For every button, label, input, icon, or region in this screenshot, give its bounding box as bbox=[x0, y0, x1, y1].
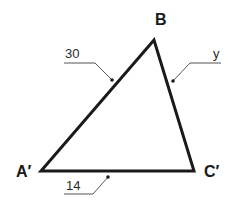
leader-side-ab bbox=[64, 63, 114, 82]
leader-side-bc bbox=[171, 63, 221, 83]
side-label-ac: 14 bbox=[66, 179, 80, 192]
side-label-ab: 30 bbox=[65, 47, 79, 60]
vertex-label-c: C′ bbox=[204, 164, 219, 180]
triangle-shape bbox=[41, 40, 194, 171]
side-label-bc: y bbox=[213, 47, 220, 60]
vertex-label-b: B bbox=[155, 12, 167, 28]
leader-dot-bc bbox=[171, 79, 175, 83]
triangle-diagram: B A′ C′ 30 y 14 bbox=[0, 0, 237, 209]
vertex-label-a: A′ bbox=[16, 164, 31, 180]
triangle-figure bbox=[0, 0, 237, 209]
leader-dot-ac bbox=[106, 175, 110, 179]
leader-dot-ab bbox=[110, 78, 114, 82]
